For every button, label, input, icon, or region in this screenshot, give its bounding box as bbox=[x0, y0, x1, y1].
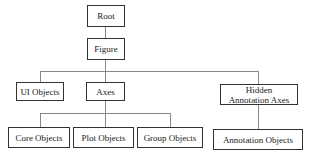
connector-to-hidden-annotation-axes bbox=[258, 71, 259, 84]
connector-root-figure bbox=[105, 27, 106, 38]
connector-to-group-objects bbox=[170, 113, 171, 127]
node-axes-label: Axes bbox=[96, 87, 115, 97]
node-annotation-objects: Annotation Objects bbox=[213, 129, 303, 150]
node-plot-objects-label: Plot Objects bbox=[81, 133, 125, 143]
node-group-objects-label: Group Objects bbox=[144, 133, 197, 143]
connector-to-axes bbox=[105, 71, 106, 82]
node-figure-label: Figure bbox=[94, 44, 118, 54]
connector-to-plot-objects bbox=[105, 113, 106, 127]
node-root-label: Root bbox=[97, 11, 115, 21]
node-axes: Axes bbox=[86, 82, 125, 101]
connector-figure-down bbox=[105, 60, 106, 71]
connector-axes-down bbox=[105, 100, 106, 113]
node-figure: Figure bbox=[87, 38, 125, 60]
connector-figure-children-bar bbox=[40, 71, 259, 72]
node-plot-objects: Plot Objects bbox=[73, 127, 134, 148]
node-ui-objects-label: UI Objects bbox=[20, 87, 59, 97]
connector-to-core-objects bbox=[40, 113, 41, 127]
node-ui-objects: UI Objects bbox=[16, 82, 64, 101]
node-core-objects: Core Objects bbox=[8, 127, 70, 148]
node-hidden-annotation-axes-line2: Annotation Axes bbox=[229, 95, 290, 105]
node-core-objects-label: Core Objects bbox=[15, 133, 62, 143]
connector-to-ui-objects bbox=[40, 71, 41, 82]
node-group-objects: Group Objects bbox=[137, 127, 203, 148]
node-root: Root bbox=[87, 5, 125, 27]
node-hidden-annotation-axes-line1: Hidden bbox=[246, 85, 273, 95]
connector-to-annotation-objects bbox=[258, 105, 259, 129]
node-annotation-objects-label: Annotation Objects bbox=[223, 135, 293, 145]
node-hidden-annotation-axes: Hidden Annotation Axes bbox=[220, 84, 298, 105]
